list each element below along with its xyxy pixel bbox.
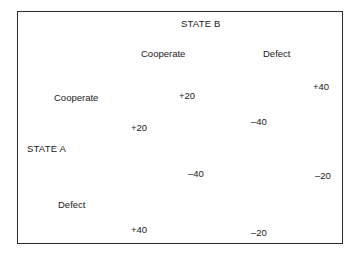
payoff-cooperate-defect-column-player: +40 <box>313 81 329 92</box>
payoff-cooperate-cooperate-row-player: +20 <box>131 122 147 133</box>
payoff-cooperate-defect-row-player: –40 <box>251 116 267 127</box>
payoff-defect-cooperate-row-player: +40 <box>131 224 147 235</box>
column-header-cooperate: Cooperate <box>141 48 185 59</box>
row-header-defect: Defect <box>58 199 85 210</box>
payoff-defect-cooperate-column-player: –40 <box>188 168 204 179</box>
row-header-cooperate: Cooperate <box>54 92 98 103</box>
payoff-matrix-figure: STATE B Cooperate Defect STATE A Coopera… <box>17 11 343 244</box>
payoff-cooperate-cooperate-column-player: +20 <box>179 90 195 101</box>
payoff-defect-defect-column-player: –20 <box>315 170 331 181</box>
row-player-title: STATE A <box>27 143 66 154</box>
column-header-defect: Defect <box>263 48 290 59</box>
payoff-defect-defect-row-player: –20 <box>251 227 267 238</box>
column-player-title: STATE B <box>181 18 221 29</box>
